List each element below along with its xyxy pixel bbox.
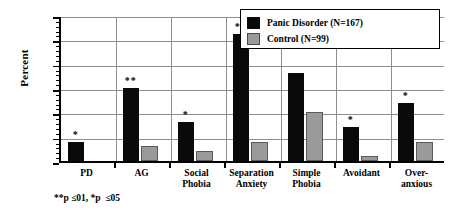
bar-control xyxy=(306,112,323,161)
x-axis-category-label: Avoidant xyxy=(334,168,389,179)
x-label-line: Social xyxy=(169,168,224,179)
black-square-swatch-icon xyxy=(247,17,260,29)
x-axis-category-label: AG xyxy=(114,168,169,179)
x-label-line: Separation xyxy=(224,168,279,179)
bar-group: * xyxy=(171,17,226,161)
significance-footnote: **p ≤01, *p ≤05 xyxy=(54,193,120,203)
x-axis-category-label: SeparationAnxiety xyxy=(224,168,279,190)
chart-legend: Panic Disorder (N=167) Control (N=99) xyxy=(240,9,440,49)
x-label-line: AG xyxy=(114,168,169,179)
x-label-line: Avoidant xyxy=(334,168,389,179)
bar-panic-disorder xyxy=(398,103,415,161)
x-axis-category-label: SimplePhobia xyxy=(279,168,334,190)
x-axis-category-label: SocialPhobia xyxy=(169,168,224,190)
bar-panic-disorder xyxy=(343,127,360,161)
legend-label: Panic Disorder (N=167) xyxy=(267,18,363,28)
bar-panic-disorder xyxy=(178,122,195,161)
bar-control xyxy=(361,156,378,161)
bar-control xyxy=(196,151,213,161)
gray-square-swatch-icon xyxy=(247,33,260,45)
bar-control xyxy=(251,142,268,161)
x-label-line: PD xyxy=(59,168,114,179)
significance-marker: * xyxy=(60,131,91,139)
legend-label: Control (N=99) xyxy=(267,34,329,44)
significance-marker: ** xyxy=(115,77,146,85)
x-label-line: Simple xyxy=(279,168,334,179)
significance-marker: * xyxy=(335,116,366,124)
x-label-line: anxious xyxy=(389,179,444,190)
y-tick-mark xyxy=(53,163,59,165)
legend-item-panic-disorder: Panic Disorder (N=167) xyxy=(247,15,433,30)
bar-control xyxy=(416,142,433,161)
bar-panic-disorder xyxy=(288,73,305,161)
legend-item-control: Control (N=99) xyxy=(247,31,433,46)
x-label-line: Phobia xyxy=(279,179,334,190)
x-label-line: Over- xyxy=(389,168,444,179)
bar-group: * xyxy=(61,17,116,161)
x-axis-category-label: PD xyxy=(59,168,114,179)
x-label-line: Anxiety xyxy=(224,179,279,190)
significance-marker: * xyxy=(390,92,421,100)
bar-panic-disorder xyxy=(233,34,250,161)
y-axis-title: Percent xyxy=(18,28,30,108)
bar-panic-disorder xyxy=(123,88,140,161)
bar-group: ** xyxy=(116,17,171,161)
bar-control xyxy=(141,146,158,161)
bar-panic-disorder xyxy=(68,142,85,161)
x-label-line: Phobia xyxy=(169,179,224,190)
x-axis-category-label: Over-anxious xyxy=(389,168,444,190)
significance-marker: * xyxy=(170,111,201,119)
bar-chart: Percent 051015202530 ******** PDAGSocial… xyxy=(0,0,464,220)
